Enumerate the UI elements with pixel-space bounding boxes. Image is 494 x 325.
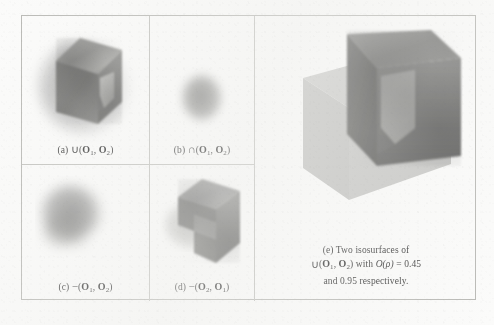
panel-d-label: (d) <box>175 281 186 291</box>
panel-d-operand-1: O <box>198 280 206 291</box>
panel-e-operator: ∪ <box>311 258 319 270</box>
panel-b-caption: (b) ∩(O1, O2) <box>150 143 254 159</box>
panel-e-texture <box>347 30 461 166</box>
panel-b-subscript-1: 1 <box>207 148 211 156</box>
panel-e-caption-line-1: (e) Two isosurfaces of <box>255 244 477 258</box>
panel-d-subscript-1: 2 <box>206 285 210 293</box>
panel-e-opacity-arg: (ρ) <box>383 259 394 269</box>
panel-b-label: (b) <box>174 144 185 154</box>
panel-a-texture <box>56 38 122 124</box>
panel-c-subscript-1: 1 <box>89 285 93 293</box>
panel-e-caption: (e) Two isosurfaces of ∪(O1, O2) with O(… <box>255 244 477 289</box>
panel-b-subscript-2: 2 <box>223 148 227 156</box>
panel-a-caption: (a) ∪(O1, O2) <box>22 143 149 159</box>
panel-d-subscript-2: 1 <box>222 285 226 293</box>
panel-c: (c) −(O1, O2) <box>22 165 149 301</box>
panel-d-caption: (d) −(O2, O1) <box>150 280 254 296</box>
figure-frame: (a) ∪(O1, O2) <box>21 15 476 300</box>
panel-e-subscript-1: 1 <box>330 263 334 271</box>
panel-e-caption-mid: ) with <box>350 259 376 269</box>
panel-c-subscript-2: 2 <box>106 285 110 293</box>
panel-b: (b) ∩(O1, O2) <box>150 16 254 164</box>
panel-a-subscript-1: 1 <box>90 148 94 156</box>
panel-e-isovalue-1: = 0.45 <box>394 259 421 269</box>
panel-e-opacity-func: O <box>376 259 383 269</box>
panel-a-operator: ∪ <box>71 143 79 155</box>
panel-b-operand-1: O <box>199 143 207 154</box>
panel-c-operator: − <box>72 280 78 292</box>
panel-e-caption-line-3: and 0.95 respectively. <box>255 275 477 289</box>
panel-a-operand-1: O <box>82 143 90 154</box>
panel-b-operator: ∩ <box>188 143 196 155</box>
panel-c-label: (c) <box>58 281 69 291</box>
panel-a-operand-2: O <box>99 143 107 154</box>
panel-d: (d) −(O2, O1) <box>150 165 254 301</box>
panel-e-operand-2: O <box>339 258 347 269</box>
panel-a-label: (a) <box>58 144 69 154</box>
panel-a: (a) ∪(O1, O2) <box>22 16 149 164</box>
panel-d-texture <box>178 179 240 263</box>
panel-d-operator: − <box>189 280 195 292</box>
panel-c-caption: (c) −(O1, O2) <box>22 280 149 296</box>
panel-e-caption-line-2: ∪(O1, O2) with O(ρ) = 0.45 <box>255 257 477 275</box>
panel-e: (e) Two isosurfaces of ∪(O1, O2) with O(… <box>255 16 477 301</box>
panel-e-operand-1: O <box>322 258 330 269</box>
panel-a-subscript-2: 2 <box>107 148 111 156</box>
panel-c-operand-2: O <box>98 280 106 291</box>
